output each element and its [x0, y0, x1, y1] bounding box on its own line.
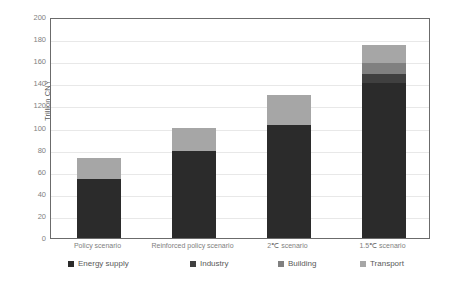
legend-swatch-icon — [360, 261, 366, 267]
x-axis-tick-label: 2℃ scenario — [240, 241, 335, 251]
bar-segment[interactable] — [362, 63, 406, 74]
bar-group[interactable] — [362, 45, 406, 238]
bar-segment[interactable] — [362, 45, 406, 64]
bar-segment[interactable] — [77, 158, 121, 179]
x-axis-tick-label: Reinforced policy scenario — [145, 241, 240, 251]
bar-segment[interactable] — [77, 179, 121, 238]
y-axis-tick-label: 180 — [22, 36, 46, 44]
legend-swatch-icon — [278, 261, 284, 267]
y-axis-tick-label: 160 — [22, 58, 46, 66]
y-axis-tick-label: 120 — [22, 102, 46, 110]
legend-label: Energy supply — [78, 259, 129, 269]
legend-swatch-icon — [68, 261, 74, 267]
x-axis-tick-labels: Policy scenarioReinforced policy scenari… — [50, 241, 430, 255]
legend-swatch-icon — [190, 261, 196, 267]
bar-group[interactable] — [267, 95, 311, 238]
y-axis-tick-label: 20 — [22, 213, 46, 221]
y-axis-tick-label: 80 — [22, 147, 46, 155]
legend-label: Transport — [370, 259, 404, 269]
y-axis-tick-label: 0 — [22, 235, 46, 243]
chart-legend: Energy supplyIndustryBuildingTransport — [50, 259, 430, 273]
legend-item[interactable]: Energy supply — [68, 259, 129, 269]
bar-segment[interactable] — [362, 74, 406, 83]
bars-layer — [51, 19, 429, 238]
y-axis-tick-label: 100 — [22, 125, 46, 133]
y-axis-tick-label: 60 — [22, 169, 46, 177]
legend-item[interactable]: Industry — [190, 259, 228, 269]
stacked-bar-chart: Trillion CNY 020406080100120140160180200… — [0, 0, 454, 285]
bar-segment[interactable] — [172, 151, 216, 238]
y-axis-tick-labels: 020406080100120140160180200 — [22, 0, 46, 285]
bar-group[interactable] — [172, 128, 216, 239]
plot-area — [50, 18, 430, 239]
y-axis-tick-label: 140 — [22, 80, 46, 88]
bar-segment[interactable] — [267, 95, 311, 125]
y-axis-tick-label: 40 — [22, 191, 46, 199]
x-axis-tick-label: Policy scenario — [50, 241, 145, 251]
legend-item[interactable]: Building — [278, 259, 316, 269]
y-axis-tick-label: 200 — [22, 14, 46, 22]
bar-segment[interactable] — [172, 128, 216, 151]
x-axis-tick-label: 1.5℃ scenario — [335, 241, 430, 251]
legend-item[interactable]: Transport — [360, 259, 404, 269]
legend-label: Industry — [200, 259, 228, 269]
bar-segment[interactable] — [267, 125, 311, 238]
bar-group[interactable] — [77, 158, 121, 238]
legend-label: Building — [288, 259, 316, 269]
bar-segment[interactable] — [362, 83, 406, 238]
